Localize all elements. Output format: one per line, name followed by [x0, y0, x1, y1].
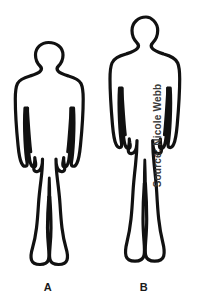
source-credit-text: Source: Nicole Webb: [152, 46, 163, 226]
body-figures-illustration: [0, 0, 207, 308]
figure-b-silhouette: [110, 17, 180, 261]
figure-label-a: A: [38, 281, 58, 293]
figure-label-b: B: [134, 281, 154, 293]
illustration-canvas: A B Source: Nicole Webb: [0, 0, 207, 308]
figure-a-silhouette: [15, 43, 83, 265]
